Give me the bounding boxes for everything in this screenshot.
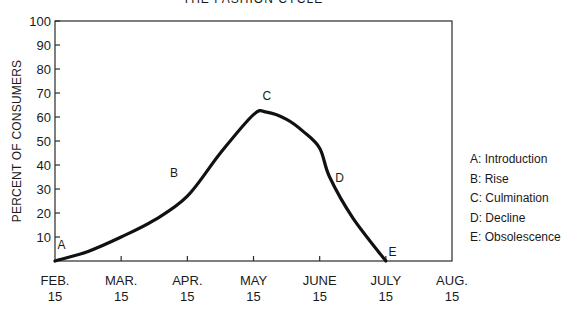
stage-label-rise: B xyxy=(170,166,178,180)
x-tick-label: JULY xyxy=(370,273,401,288)
stage-labels: ABCDE xyxy=(58,89,397,259)
x-tick-label: 15 xyxy=(379,289,393,304)
fashion-cycle-curve xyxy=(55,111,386,261)
x-tick-label: 15 xyxy=(114,289,128,304)
x-tick-label: 15 xyxy=(312,289,326,304)
stage-label-obsolescence: E xyxy=(388,245,396,259)
x-tick-label: 15 xyxy=(246,289,260,304)
y-axis-label: PERCENT OF CONSUMERS xyxy=(10,60,24,222)
x-tick-label: AUG. xyxy=(436,273,468,288)
y-tick-label: 90 xyxy=(37,38,51,53)
legend-item-introduction: A: Introduction xyxy=(470,150,561,170)
stage-label-decline: D xyxy=(335,171,344,185)
x-tick-label: FEB. xyxy=(41,273,70,288)
x-tick-label: 15 xyxy=(180,289,194,304)
y-tick-label: 50 xyxy=(37,134,51,149)
x-tick-label: MAR. xyxy=(105,273,138,288)
y-tick-label: 80 xyxy=(37,62,51,77)
x-axis: FEB.15MAR.15APR.15MAY15JUNE15JULY15AUG.1… xyxy=(41,256,468,304)
stage-label-culmination: C xyxy=(262,89,271,103)
legend-item-culmination: C: Culmination xyxy=(470,189,561,209)
chart-title: THE FASHION CYCLE xyxy=(183,0,323,6)
x-tick-label: 15 xyxy=(445,289,459,304)
x-tick-label: APR. xyxy=(172,273,202,288)
y-tick-label: 70 xyxy=(37,86,51,101)
y-tick-label: 30 xyxy=(37,182,51,197)
legend: A: Introduction B: Rise C: Culmination D… xyxy=(470,150,561,248)
x-tick-label: MAY xyxy=(240,273,268,288)
legend-item-decline: D: Decline xyxy=(470,209,561,229)
y-tick-label: 20 xyxy=(37,206,51,221)
y-tick-label: 10 xyxy=(37,230,51,245)
plot-frame xyxy=(55,21,452,261)
x-tick-label: 15 xyxy=(48,289,62,304)
legend-item-rise: B: Rise xyxy=(470,170,561,190)
y-tick-label: 100 xyxy=(29,14,51,29)
stage-label-introduction: A xyxy=(58,238,66,252)
y-tick-label: 60 xyxy=(37,110,51,125)
y-tick-label: 40 xyxy=(37,158,51,173)
legend-item-obsolescence: E: Obsolescence xyxy=(470,228,561,248)
x-tick-label: JUNE xyxy=(303,273,337,288)
